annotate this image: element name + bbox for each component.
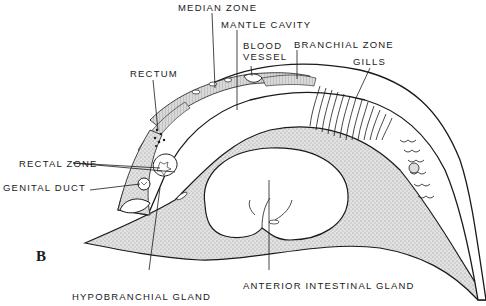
branchial-zone-band (262, 75, 316, 86)
label-blood-vessel-line2: VESSEL (243, 52, 287, 62)
label-mantle-cavity: MANTLE CAVITY (221, 20, 311, 30)
label-hypobranchial-gland: HYPOBRANCHIAL GLAND (72, 292, 211, 302)
label-rectum: RECTUM (130, 69, 178, 79)
label-blood-vessel-line1: BLOOD (243, 41, 282, 51)
label-median-zone: MEDIAN ZONE (178, 3, 257, 13)
intestinal-gland (204, 148, 348, 240)
label-anterior-intestinal-gland: ANTERIOR INTESTINAL GLAND (243, 281, 415, 291)
label-gills: GILLS (353, 57, 386, 67)
figure-panel-letter: B (36, 248, 46, 265)
label-rectal-zone: RECTAL ZONE (19, 159, 98, 169)
mantle-cross-section-diagram: MEDIAN ZONE MANTLE CAVITY BLOOD VESSEL B… (0, 0, 486, 306)
label-branchial-zone: BRANCHIAL ZONE (294, 40, 394, 50)
label-genital-duct: GENITAL DUCT (3, 183, 86, 193)
